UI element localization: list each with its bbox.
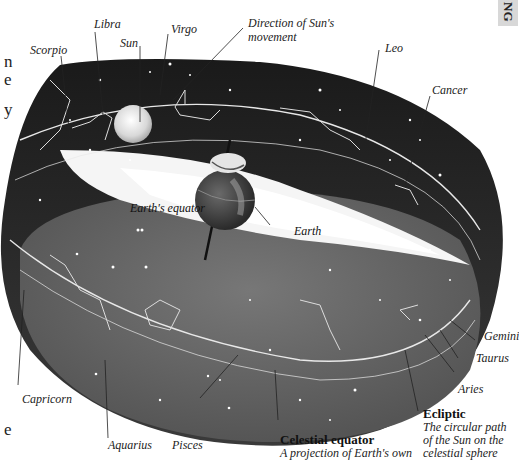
label-virgo: Virgo	[171, 23, 197, 36]
label-earth: Earth	[294, 225, 321, 238]
zodiac-band	[1, 59, 503, 446]
label-pisces: Pisces	[172, 439, 203, 452]
label-aquarius: Aquarius	[108, 439, 152, 452]
label-cancer: Cancer	[432, 84, 467, 97]
label-scorpio: Scorpio	[30, 44, 67, 57]
celestial-equator-desc-1: A projection of Earth's own	[280, 447, 412, 460]
label-gemini: Gemini	[484, 330, 519, 343]
label-aries: Aries	[458, 383, 483, 396]
sun-icon	[114, 105, 152, 143]
label-direction-line1: Direction of Sun's	[248, 17, 334, 30]
label-capricorn: Capricorn	[22, 393, 72, 406]
label-sun: Sun	[120, 37, 138, 50]
label-earths-equator: Earth's equator	[130, 202, 205, 215]
ecliptic-desc-3: celestial sphere	[423, 447, 498, 460]
label-taurus: Taurus	[476, 352, 509, 365]
label-libra: Libra	[94, 18, 121, 31]
label-leo: Leo	[385, 42, 403, 55]
label-direction-line2: movement	[248, 31, 297, 44]
